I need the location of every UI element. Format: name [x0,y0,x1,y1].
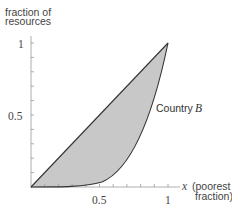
y-tick-label-1: 1 [18,38,24,50]
x-tick-label-1: 1 [165,194,171,206]
y-ticks [31,43,34,173]
x-axis-label-line2: fraction) [195,190,232,202]
y-tick-label-0.5: 0.5 [8,110,23,122]
y-axis-label-line2: resources [5,15,51,27]
x-axis-variable: x [181,180,188,192]
country-b-label: Country [156,102,194,114]
lorenz-chart: fraction of resources 1 0.5 0.5 1 x (poo… [0,0,232,210]
x-tick-label-0.5: 0.5 [92,194,107,206]
country-b-variable: B [195,102,202,114]
